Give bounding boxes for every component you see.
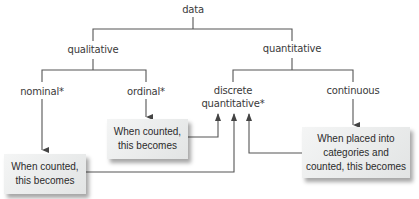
discrete-line1: discrete	[201, 84, 264, 97]
node-quantitative: quantitative	[263, 42, 321, 55]
nominal-counted-box: When counted, this becomes	[4, 154, 86, 194]
node-ordinal: ordinal*	[127, 85, 165, 98]
continuous-box-line1: When placed into	[306, 132, 406, 146]
continuous-box-line3: counted, this becomes	[306, 160, 406, 174]
ordinal-counted-box: When counted, this becomes	[107, 119, 188, 159]
node-continuous: continuous	[327, 84, 380, 97]
nominal-box-line1: When counted,	[11, 160, 78, 174]
node-qualitative: qualitative	[68, 43, 119, 56]
discrete-line2: quantitative*	[201, 97, 264, 110]
nominal-box-line2: this becomes	[11, 174, 78, 188]
node-data: data	[182, 3, 204, 16]
node-nominal: nominal*	[20, 85, 64, 98]
continuous-categorized-box: When placed into categories and counted,…	[302, 127, 410, 178]
ordinal-box-line1: When counted,	[114, 125, 181, 139]
ordinal-box-line2: this becomes	[114, 139, 181, 153]
continuous-box-line2: categories and	[306, 146, 406, 160]
node-discrete-quantitative: discrete quantitative*	[201, 84, 264, 110]
